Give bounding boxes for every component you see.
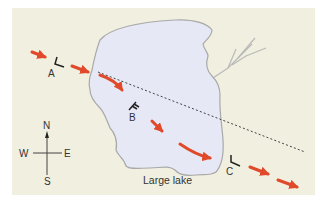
compass-south: S bbox=[44, 176, 51, 187]
lake-label: Large lake bbox=[143, 174, 192, 186]
point-c-label: C bbox=[226, 166, 233, 177]
compass-east: E bbox=[64, 148, 71, 159]
point-b-label: B bbox=[129, 112, 136, 123]
compass-west: W bbox=[19, 148, 29, 159]
lake-effect-diagram: A B C Large lake N S W E bbox=[0, 0, 323, 209]
point-a-label: A bbox=[48, 68, 55, 79]
compass-north: N bbox=[43, 120, 50, 131]
